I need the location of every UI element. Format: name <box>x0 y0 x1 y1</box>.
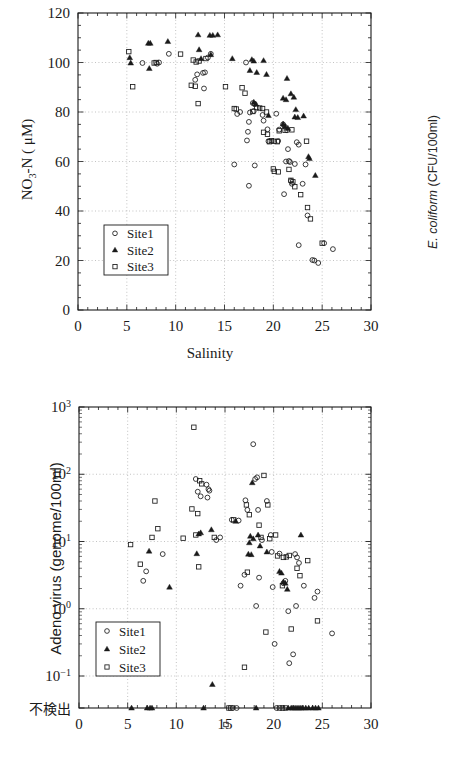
right-axis-title-italic: E. coliform <box>426 190 440 249</box>
marker-site3 <box>264 630 268 634</box>
marker-site2 <box>284 75 290 80</box>
marker-site1 <box>297 561 302 566</box>
marker-site1 <box>245 138 250 143</box>
y-tick-label: 40 <box>55 203 70 219</box>
marker-site2 <box>247 68 253 73</box>
series-site3 <box>128 425 319 727</box>
marker-site2 <box>254 70 260 75</box>
marker-site3 <box>153 499 157 503</box>
y-tick-label: 120 <box>48 5 71 21</box>
marker-site2 <box>167 584 173 589</box>
x-tick-label: 0 <box>75 716 83 732</box>
marker-site3 <box>304 139 308 143</box>
legend-label-site1: Site1 <box>127 226 154 241</box>
y-tick-label: 60 <box>55 154 70 170</box>
marker-site2 <box>298 532 304 537</box>
marker-site1 <box>251 442 256 447</box>
marker-site1 <box>198 494 203 499</box>
marker-site2 <box>165 39 171 44</box>
legend-label-site1: Site1 <box>119 624 146 639</box>
marker-site3 <box>196 511 200 515</box>
x-tick-label: 5 <box>123 318 131 334</box>
marker-site1 <box>256 507 261 512</box>
marker-site2 <box>255 532 261 537</box>
marker-site2 <box>146 66 152 71</box>
chart-legend: Site1Site2Site3 <box>104 225 168 275</box>
marker-site1 <box>245 507 250 512</box>
y-tick-label: 20 <box>55 253 70 269</box>
marker-site1 <box>140 61 145 66</box>
legend-label-site2: Site2 <box>127 243 154 258</box>
marker-site1 <box>303 162 308 167</box>
marker-site1 <box>195 489 200 494</box>
marker-site1 <box>272 641 277 646</box>
series-site2 <box>127 32 318 178</box>
marker-site2 <box>196 47 202 52</box>
marker-site1 <box>195 72 200 77</box>
marker-site1 <box>166 51 171 56</box>
x-tick-label: 10 <box>169 716 184 732</box>
marker-site2 <box>312 172 318 177</box>
marker-site3 <box>127 49 131 53</box>
marker-site2 <box>288 91 294 96</box>
marker-site1 <box>160 552 165 557</box>
marker-site1 <box>193 77 198 82</box>
marker-site1 <box>282 192 287 197</box>
y-tick-label: 100 <box>48 55 71 71</box>
marker-site2 <box>301 113 307 118</box>
right-axis-title-rest: (CFU/100ml) <box>426 115 440 190</box>
marker-site3 <box>181 536 185 540</box>
marker-site3 <box>315 619 319 623</box>
x-axis-title-top: Salinity <box>0 345 420 362</box>
chart-panel-no3n: 051015202530020406080100120Site1Site2Sit… <box>0 0 457 390</box>
x-tick-label: 20 <box>266 318 281 334</box>
marker-site1 <box>252 163 257 168</box>
marker-site2 <box>264 71 270 76</box>
x-tick-label: 25 <box>315 716 330 732</box>
marker-site1 <box>312 595 317 600</box>
marker-site1 <box>254 604 259 609</box>
marker-site1 <box>300 181 305 186</box>
series-site3 <box>127 49 325 245</box>
marker-site1 <box>238 583 243 588</box>
marker-site3 <box>298 574 302 578</box>
marker-site2 <box>127 55 133 60</box>
y-tick-label: 0 <box>63 302 71 318</box>
marker-site3 <box>190 507 194 511</box>
marker-site3 <box>240 86 244 90</box>
marker-site1 <box>246 129 251 134</box>
marker-site1 <box>291 652 296 657</box>
y-tick-label: 80 <box>55 104 70 120</box>
below-detection-label: 不検出 <box>29 701 71 717</box>
marker-site2 <box>146 548 152 553</box>
tick-labels: 05101520253010310210110010−1不検出 <box>29 398 379 733</box>
marker-site2 <box>264 549 270 554</box>
marker-site3 <box>289 627 293 631</box>
marker-site3 <box>197 565 201 569</box>
marker-site1 <box>244 60 249 65</box>
adenovirus-scatter-plot: 05101520253010310210110010−1不検出Site1Site… <box>0 380 457 773</box>
marker-site1 <box>274 111 279 116</box>
marker-site3 <box>128 542 132 546</box>
marker-site3 <box>196 101 200 105</box>
x-tick-label: 30 <box>364 716 379 732</box>
marker-site1 <box>260 538 265 543</box>
marker-site2 <box>284 586 290 591</box>
marker-site3 <box>150 535 154 539</box>
marker-site1 <box>270 585 275 590</box>
marker-site1 <box>286 609 291 614</box>
x-tick-label: 15 <box>218 716 233 732</box>
marker-site1 <box>261 118 266 123</box>
marker-site1 <box>277 127 282 132</box>
marker-site1 <box>205 495 210 500</box>
marker-site1 <box>305 213 310 218</box>
marker-site3 <box>245 570 249 574</box>
marker-site1 <box>269 549 274 554</box>
marker-site3 <box>138 562 142 566</box>
marker-site3 <box>262 473 266 477</box>
marker-site2 <box>208 527 214 532</box>
x-tick-label: 15 <box>217 318 232 334</box>
marker-site2 <box>195 32 201 37</box>
marker-site3 <box>306 558 310 562</box>
marker-site1 <box>316 261 321 266</box>
